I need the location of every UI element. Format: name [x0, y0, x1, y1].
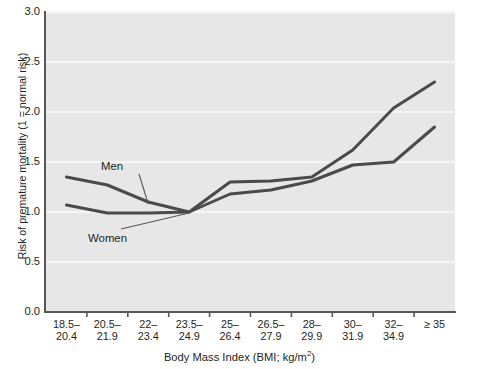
x-tick-label-line1: 32– — [385, 318, 403, 330]
y-tick-label-2.0: 2.0 — [0, 106, 40, 117]
x-tick-label-line1: ≥ 35 — [424, 318, 445, 330]
y-tick-label-3.0: 3.0 — [0, 6, 40, 17]
series-label-men: Men — [101, 160, 123, 172]
bmi-mortality-chart: Risk of premature mortality (1 = normal … — [0, 0, 479, 369]
x-axis-title-text: Body Mass Index (BMI; kg/m2) — [164, 351, 315, 363]
y-tick-label-0.5: 0.5 — [0, 256, 40, 267]
y-tick-label-0.0: 0.0 — [0, 306, 40, 317]
leader-line-women — [121, 213, 189, 229]
x-tick-label-9: ≥ 35 — [404, 318, 466, 330]
x-axis-title: Body Mass Index (BMI; kg/m2) — [0, 349, 479, 363]
series-label-women: Women — [88, 232, 127, 244]
x-tick-label-line1: 28– — [303, 318, 321, 330]
x-tick-label-line1: 22– — [139, 318, 157, 330]
x-tick-label-line2: 34.9 — [363, 330, 425, 342]
y-tick-label-1.5: 1.5 — [0, 156, 40, 167]
plot-canvas — [0, 0, 479, 369]
y-tick-label-2.5: 2.5 — [0, 56, 40, 67]
x-tick-label-line1: 30– — [344, 318, 362, 330]
x-tick-label-line1: 25– — [221, 318, 239, 330]
y-tick-label-1.0: 1.0 — [0, 206, 40, 217]
